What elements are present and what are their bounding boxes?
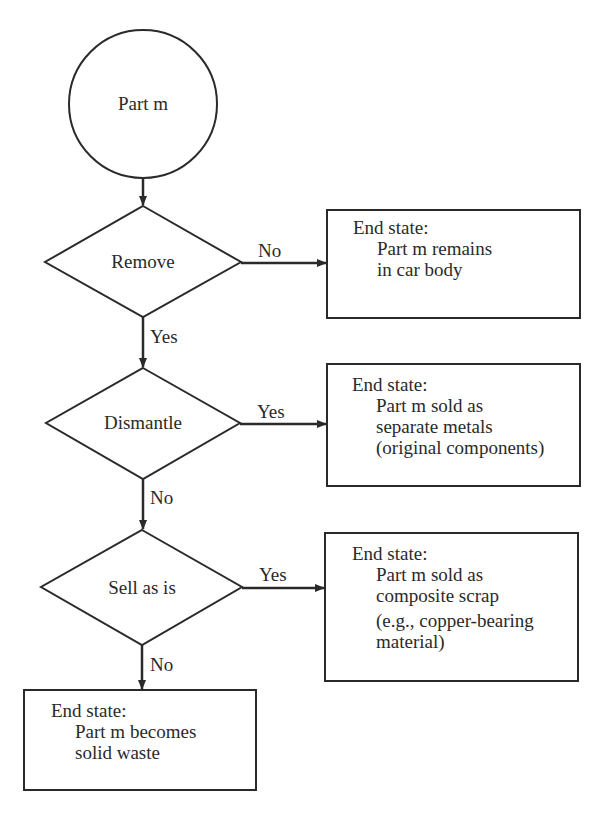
end-state-text-4: End state: Part m becomes solid waste (51, 700, 196, 763)
end-state-line: solid waste (51, 742, 196, 763)
end-state-text-1: End state: Part m remains in car body (353, 217, 492, 280)
end-state-line: Part m sold as (352, 564, 534, 585)
branch-label-dismantle-yes: Yes (257, 401, 285, 423)
end-state-line: in car body (353, 259, 492, 280)
end-state-heading: End state: (352, 374, 544, 395)
end-state-line: composite scrap (352, 585, 534, 606)
end-state-heading: End state: (353, 217, 492, 238)
branch-label-dismantle-no: No (150, 487, 173, 509)
end-state-line: (original components) (352, 437, 544, 458)
end-state-heading: End state: (352, 543, 534, 564)
start-node-label: Part m (118, 93, 168, 115)
decision-sell-as-is-label: Sell as is (108, 577, 176, 599)
branch-label-sell-no: No (150, 654, 173, 676)
end-state-line: Part m becomes (51, 721, 196, 742)
decision-dismantle-label: Dismantle (104, 412, 182, 434)
decision-remove-label: Remove (111, 251, 174, 273)
end-state-text-2: End state: Part m sold as separate metal… (352, 374, 544, 458)
end-state-line: separate metals (352, 416, 544, 437)
end-state-line: Part m sold as (352, 395, 544, 416)
end-state-heading: End state: (51, 700, 196, 721)
end-state-line: material) (352, 631, 534, 652)
branch-label-sell-yes: Yes (259, 564, 287, 586)
branch-label-remove-yes: Yes (150, 326, 178, 348)
end-state-line: Part m remains (353, 238, 492, 259)
end-state-line: (e.g., copper-bearing (352, 610, 534, 631)
end-state-text-3: End state: Part m sold as composite scra… (352, 543, 534, 652)
branch-label-remove-no: No (258, 240, 281, 262)
